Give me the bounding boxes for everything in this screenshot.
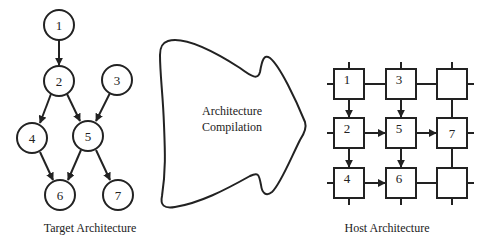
target-node-4-label: 4 [29,131,36,146]
edge-4-6 [40,152,53,180]
architecture-compilation-diagram: 1 2 3 4 5 6 7 Target Architecture Archit… [0,0,489,247]
edge-2-5 [67,94,80,121]
target-architecture-caption: Target Architecture [44,221,137,235]
host-cell-1-label: 1 [344,72,351,87]
target-node-1-label: 1 [56,18,63,33]
target-node-3-label: 3 [114,73,121,88]
host-cell-6-label: 6 [396,171,403,186]
target-architecture-graph [17,10,133,210]
target-node-5-label: 5 [85,129,92,144]
host-cell-7-label: 7 [449,126,456,141]
target-node-2-label: 2 [56,74,63,89]
edge-2-4 [40,94,51,123]
target-node-6-label: 6 [57,188,64,203]
host-cell-2-label: 2 [344,121,351,136]
compilation-label-line2: Compilation [202,120,262,134]
host-cell-empty-top [437,69,467,99]
edge-5-6 [68,150,81,180]
edge-5-7 [96,150,110,180]
host-architecture-caption: Host Architecture [345,221,430,235]
host-cell-3-label: 3 [396,72,403,87]
target-node-7-label: 7 [115,188,122,203]
edge-3-5 [96,93,110,121]
compilation-label-line1: Architecture [202,104,262,118]
host-cell-4-label: 4 [344,171,351,186]
host-cell-5-label: 5 [396,121,403,136]
host-cell-empty-bottom [437,168,467,198]
